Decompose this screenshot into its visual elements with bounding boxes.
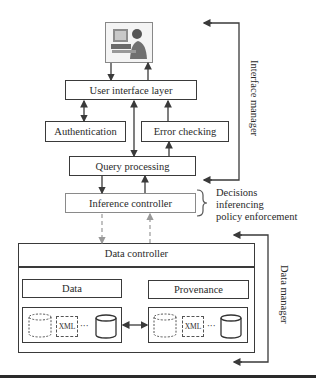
xml-label: XML bbox=[59, 322, 76, 331]
user-interface-layer-box: User interface layer bbox=[65, 80, 197, 100]
ellipsis: ··· bbox=[207, 321, 216, 331]
inference-note-inferencing: inferencing bbox=[216, 199, 264, 211]
data-controller-divider bbox=[18, 266, 255, 268]
user-at-computer-icon bbox=[106, 23, 152, 62]
xml-label: XML bbox=[185, 322, 202, 331]
inference-note-decisions: Decisions bbox=[216, 187, 257, 199]
xml-document-icon: XML bbox=[56, 316, 78, 337]
authentication-label: Authentication bbox=[54, 126, 116, 137]
user-image-frame bbox=[105, 22, 153, 63]
inference-note-policy: policy enforcement bbox=[216, 211, 297, 223]
data-label: Data bbox=[62, 283, 82, 294]
inference-controller-box: Inference controller bbox=[65, 193, 196, 213]
ellipsis: ··· bbox=[80, 321, 89, 331]
error-checking-box: Error checking bbox=[141, 121, 229, 142]
dashed-database-icon bbox=[27, 313, 53, 339]
database-icon bbox=[94, 314, 118, 340]
interface-manager-label: Interface manager bbox=[249, 60, 260, 136]
brace bbox=[197, 190, 207, 216]
bottom-rule bbox=[0, 375, 316, 378]
xml-document-icon: XML bbox=[182, 316, 204, 337]
database-icon bbox=[219, 314, 243, 340]
authentication-box: Authentication bbox=[45, 121, 126, 142]
provenance-label: Provenance bbox=[174, 284, 223, 295]
data-controller-label: Data controller bbox=[18, 248, 255, 260]
query-processing-label: Query processing bbox=[96, 161, 170, 172]
query-processing-box: Query processing bbox=[69, 156, 196, 176]
data-box: Data bbox=[22, 279, 122, 298]
error-checking-label: Error checking bbox=[154, 126, 217, 137]
provenance-box: Provenance bbox=[148, 280, 249, 299]
inference-controller-label: Inference controller bbox=[89, 198, 172, 209]
data-manager-label: Data manager bbox=[279, 265, 290, 324]
dashed-database-icon bbox=[152, 313, 178, 339]
user-interface-layer-label: User interface layer bbox=[90, 85, 173, 96]
